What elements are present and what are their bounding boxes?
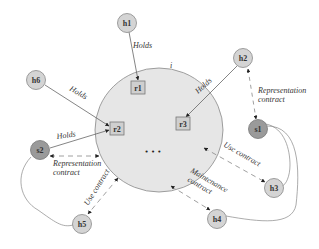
- s1-h4-link: [226, 126, 298, 221]
- label-holds-s2: Holds: [55, 129, 76, 141]
- label-use-contract-h3: Use contract: [222, 140, 263, 169]
- service-s1[interactable]: s1: [249, 120, 268, 139]
- resource-r3[interactable]: r3: [176, 117, 190, 130]
- holder-h1[interactable]: h1: [118, 14, 137, 33]
- svg-text:r1: r1: [134, 84, 142, 93]
- label-representation-s1: Representation: [257, 86, 306, 95]
- svg-text:h2: h2: [239, 54, 247, 63]
- svg-text:s1: s1: [254, 125, 261, 134]
- holder-h2[interactable]: h2: [234, 49, 253, 68]
- resource-r1[interactable]: r1: [131, 81, 145, 94]
- holder-h6[interactable]: h6: [27, 71, 46, 90]
- label-use-contract-h5: Use contract: [82, 167, 112, 207]
- label-holds-h1: Holds: [132, 41, 152, 50]
- svg-text:s2: s2: [36, 146, 43, 155]
- label-contract-s2: contract: [53, 168, 80, 177]
- label-contract-s1: contract: [258, 95, 285, 104]
- svg-text:h1: h1: [123, 19, 131, 28]
- architecture-diagram: i Holds Holds Holds Holds Representation…: [0, 0, 319, 249]
- svg-text:r2: r2: [113, 125, 121, 134]
- holder-h3[interactable]: h3: [265, 179, 284, 198]
- resource-r2[interactable]: r2: [110, 122, 124, 135]
- holder-h4[interactable]: h4: [208, 210, 227, 229]
- svg-text:h3: h3: [270, 184, 278, 193]
- holder-h5[interactable]: h5: [73, 215, 92, 234]
- svg-text:r3: r3: [179, 120, 187, 129]
- svg-text:h5: h5: [78, 220, 86, 229]
- service-s2[interactable]: s2: [31, 141, 50, 160]
- ellipsis: • • •: [145, 148, 162, 156]
- label-representation-s2: Representation: [52, 159, 101, 168]
- label-holds-h6: Holds: [67, 83, 89, 101]
- svg-text:h4: h4: [213, 215, 221, 224]
- edge-h2-s1-representation: [248, 69, 256, 119]
- region-label: i: [170, 61, 172, 70]
- svg-text:h6: h6: [32, 76, 40, 85]
